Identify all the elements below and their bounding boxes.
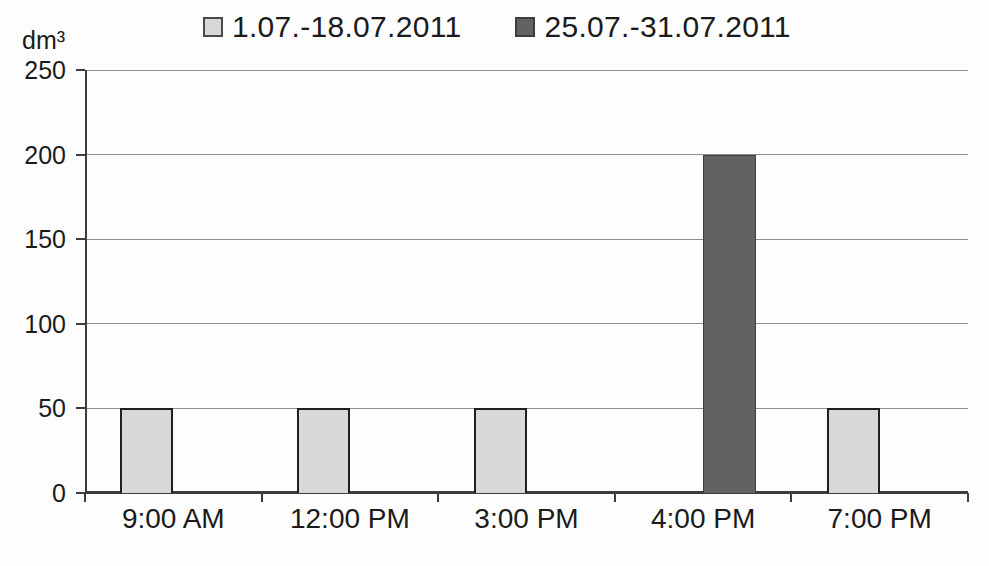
x-tick-mark-4 [790,493,792,502]
y-tick-mark-200 [76,154,85,156]
legend-label-period2: 25.07.-31.07.2011 [544,10,790,44]
legend-swatch-light [203,17,223,37]
x-tick-mark-3 [614,493,616,502]
y-axis-line [85,70,87,493]
x-label-5: 7:00 PM [828,503,932,535]
x-label-3: 3:00 PM [474,503,578,535]
y-tick-label-100: 100 [0,310,66,339]
y-tick-label-50: 50 [0,394,66,423]
legend-label-period1: 1.07.-18.07.2011 [232,10,461,44]
legend-item-period2: 25.07.-31.07.2011 [515,10,790,44]
x-tick-mark-5 [967,493,969,502]
gridline-150 [85,239,968,240]
y-tick-label-200: 200 [0,141,66,170]
y-axis-unit-label: dm³ [22,26,65,55]
legend-swatch-dark [515,17,535,37]
y-tick-mark-250 [76,69,85,71]
x-label-1: 9:00 AM [122,503,225,535]
x-label-4: 4:00 PM [651,503,755,535]
x-tick-mark-1 [261,493,263,502]
bar-300PM-series1 [474,408,527,493]
y-tick-label-250: 250 [0,56,66,85]
legend-item-period1: 1.07.-18.07.2011 [203,10,461,44]
bar-1200PM-series1 [297,408,350,493]
gridline-100 [85,323,968,324]
x-label-2: 12:00 PM [290,503,410,535]
y-tick-mark-150 [76,238,85,240]
bar-900AM-series1 [120,408,173,493]
y-tick-mark-100 [76,323,85,325]
bar-700PM-series1 [827,408,880,493]
plot-area [85,70,968,493]
chart-legend: 1.07.-18.07.2011 25.07.-31.07.2011 [203,10,791,44]
x-tick-mark-0 [84,493,86,502]
gridline-250 [85,70,968,71]
y-tick-mark-50 [76,407,85,409]
bar-chart: 1.07.-18.07.2011 25.07.-31.07.2011 dm³ 0… [0,0,989,566]
x-tick-mark-2 [437,493,439,502]
bar-400PM-series2 [703,155,756,493]
y-tick-label-150: 150 [0,225,66,254]
y-tick-label-0: 0 [0,479,66,508]
gridline-200 [85,154,968,155]
